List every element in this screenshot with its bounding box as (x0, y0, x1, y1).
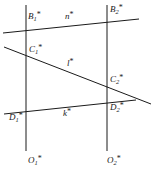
point-label-O2: O2* (107, 155, 121, 167)
point-label-B1: B1* (28, 11, 41, 23)
geometry-canvas (0, 0, 160, 175)
point-label-O1: O1* (28, 155, 42, 167)
point-label-C1: C1* (29, 44, 42, 56)
point-label-B2: B2* (110, 4, 123, 16)
point-label-C2: C2* (110, 74, 123, 86)
point-label-D1: D1* (9, 112, 23, 124)
line-label-k: k* (63, 108, 71, 118)
geometry-figure: n* l* k* B1* B2* C1* C2* D1* D2* O1* O2* (0, 0, 160, 175)
line-label-n: n* (65, 11, 74, 21)
line-label-l: l* (67, 58, 74, 68)
point-label-D2: D2* (110, 102, 124, 114)
